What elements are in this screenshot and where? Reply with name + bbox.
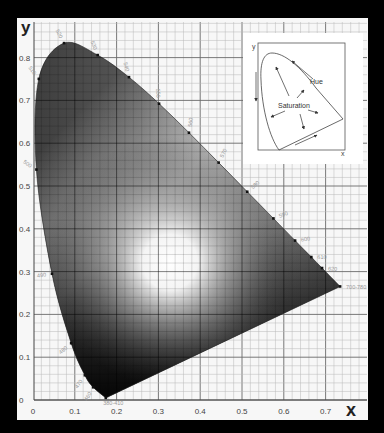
wavelength-dot <box>70 342 73 345</box>
chromaticity-chart: 380-410460470480490500510520530540550560… <box>0 0 384 433</box>
x-tick-label: 0.6 <box>278 407 290 416</box>
y-tick-label: 0.5 <box>19 182 31 191</box>
wavelength-dot <box>92 386 95 389</box>
x-tick-label: 0.5 <box>236 407 248 416</box>
y-tick-label: 0.1 <box>19 353 31 362</box>
x-tick-label: 0.1 <box>69 407 81 416</box>
wavelength-dot <box>217 161 220 164</box>
y-axis-label: y <box>21 18 31 37</box>
x-tick-label: 0.7 <box>320 407 332 416</box>
wavelength-dot <box>51 272 54 275</box>
y-tick-label: 0.6 <box>19 139 31 148</box>
wavelength-dot <box>188 131 191 134</box>
x-tick-label: 0 <box>31 407 36 416</box>
wavelength-dot <box>158 102 161 105</box>
wavelength-dot <box>63 42 66 45</box>
y-tick-label: 0.8 <box>19 54 31 63</box>
inset-diagram: y x Hue Saturation <box>243 33 363 164</box>
wavelength-dot <box>339 285 342 288</box>
y-tick-label: 0 <box>19 396 24 405</box>
wavelength-dot <box>96 54 99 57</box>
x-tick-label: 0.4 <box>195 407 207 416</box>
y-tick-label: 0.3 <box>19 268 31 277</box>
wavelength-dot <box>294 239 297 242</box>
wavelength-dot <box>84 374 87 377</box>
wavelength-dot <box>272 217 275 220</box>
wavelength-dot <box>128 76 131 79</box>
inset-x-label: x <box>341 150 345 157</box>
x-tick-label: 0.3 <box>153 407 165 416</box>
wavelength-label: 550 <box>155 88 162 98</box>
wavelength-dot <box>38 78 41 81</box>
wavelength-label: 490 <box>37 272 47 279</box>
x-tick-label: 0.2 <box>111 407 123 416</box>
wavelength-label: 610 <box>317 254 326 260</box>
wavelength-dot <box>246 190 249 193</box>
wavelength-dot <box>104 397 107 400</box>
chart-svg: 380-410460470480490500510520530540550560… <box>0 0 384 433</box>
y-tick-label: 0.4 <box>19 225 31 234</box>
inset-y-label: y <box>252 43 256 51</box>
wavelength-dot <box>321 267 324 270</box>
x-axis-label: x <box>346 400 356 420</box>
wavelength-dot <box>310 256 313 259</box>
wavelength-dot <box>35 168 38 171</box>
wavelength-label: 700-780 <box>346 284 366 290</box>
y-tick-label: 0.2 <box>19 310 31 319</box>
wavelength-label: 560 <box>187 117 194 127</box>
y-tick-label: 0.7 <box>19 96 31 105</box>
inset-hue-label: Hue <box>310 78 323 85</box>
inset-saturation-label: Saturation <box>278 102 310 109</box>
wavelength-label: 620 <box>328 265 338 272</box>
wavelength-label: 380-410 <box>103 400 123 406</box>
